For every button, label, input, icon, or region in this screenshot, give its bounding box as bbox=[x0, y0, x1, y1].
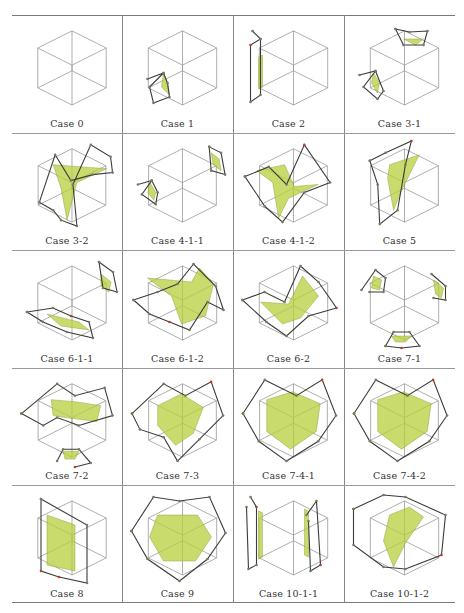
cube-wireframe bbox=[148, 31, 216, 105]
case-cell: Case 1 bbox=[122, 15, 233, 133]
case-illustration bbox=[124, 135, 235, 234]
dual-contour-patch bbox=[131, 381, 225, 463]
case-caption: Case 0 bbox=[12, 118, 122, 129]
case-illustration bbox=[14, 487, 124, 587]
case-caption: Case 10-1-1 bbox=[233, 588, 344, 599]
case-illustration bbox=[235, 370, 346, 469]
case-cell: Case 4-1-1 bbox=[122, 133, 233, 250]
case-illustration bbox=[235, 17, 346, 117]
case-cell: Case 3-2 bbox=[12, 133, 122, 250]
case-illustration bbox=[346, 487, 457, 587]
dual-contour-patch bbox=[353, 379, 449, 463]
case-caption: Case 5 bbox=[344, 235, 455, 246]
dual-contour-patch bbox=[130, 496, 227, 583]
case-cell: Case 7-3 bbox=[122, 368, 233, 485]
case-illustration bbox=[14, 370, 124, 469]
case-cell: Case 10-1-2 bbox=[344, 485, 455, 603]
case-cell: Case 9 bbox=[122, 485, 233, 603]
case-cell: Case 6-2 bbox=[233, 250, 344, 368]
case-illustration bbox=[346, 17, 457, 117]
cube-wireframe bbox=[38, 31, 106, 105]
case-illustration bbox=[124, 252, 235, 352]
case-caption: Case 7-3 bbox=[122, 470, 233, 481]
dual-contour-patch bbox=[242, 379, 338, 463]
case-caption: Case 8 bbox=[12, 588, 122, 599]
case-illustration bbox=[14, 252, 124, 352]
case-caption: Case 6-1-1 bbox=[12, 353, 122, 364]
dual-contour-patch bbox=[146, 72, 171, 105]
case-cell: Case 10-1-1 bbox=[233, 485, 344, 603]
case-cell: Case 2 bbox=[233, 15, 344, 133]
case-caption: Case 4-1-2 bbox=[233, 235, 344, 246]
dual-contour-patch bbox=[245, 496, 262, 571]
case-caption: Case 7-4-2 bbox=[344, 470, 455, 481]
cube-wireframe bbox=[38, 266, 106, 340]
cube-wireframe bbox=[149, 149, 217, 222]
case-illustration bbox=[124, 487, 235, 587]
case-cell: Case 6-1-2 bbox=[122, 250, 233, 368]
case-caption: Case 3-2 bbox=[12, 235, 122, 246]
dual-contour-patch bbox=[358, 70, 385, 101]
dual-contour-patch bbox=[98, 261, 119, 294]
case-caption: Case 7-1 bbox=[344, 353, 455, 364]
case-cell: Case 8 bbox=[12, 485, 122, 603]
dual-contour-patch bbox=[20, 383, 114, 427]
cube-wireframe bbox=[259, 31, 327, 105]
case-illustration bbox=[346, 135, 457, 234]
dual-contour-patch bbox=[241, 265, 338, 338]
case-caption: Case 2 bbox=[233, 118, 344, 129]
dual-contour-patch bbox=[38, 144, 114, 228]
dual-contour-patch bbox=[249, 30, 262, 104]
case-caption: Case 10-1-2 bbox=[344, 588, 455, 599]
case-table: Case 0Case 1Case 2Case 3-1Case 3-2Case 4… bbox=[12, 15, 455, 603]
case-illustration bbox=[14, 17, 124, 117]
dual-contour-patch bbox=[244, 144, 332, 224]
dual-contour-patch bbox=[132, 263, 225, 332]
cube-wireframe bbox=[370, 266, 438, 340]
case-illustration bbox=[346, 370, 457, 469]
case-illustration bbox=[14, 135, 124, 234]
case-cell: Case 7-2 bbox=[12, 368, 122, 485]
case-illustration bbox=[124, 370, 235, 469]
case-illustration bbox=[346, 252, 457, 352]
case-caption: Case 4-1-1 bbox=[122, 235, 233, 246]
dual-contour-patch bbox=[352, 494, 447, 571]
case-illustration bbox=[235, 135, 346, 234]
dual-contour-patch bbox=[56, 448, 92, 468]
dual-contour-patch bbox=[394, 28, 429, 47]
case-cell: Case 6-1-1 bbox=[12, 250, 122, 368]
case-caption: Case 6-2 bbox=[233, 353, 344, 364]
case-caption: Case 6-1-2 bbox=[122, 353, 233, 364]
case-illustration bbox=[235, 487, 346, 587]
case-cell: Case 7-1 bbox=[344, 250, 455, 368]
case-cell: Case 3-1 bbox=[344, 15, 455, 133]
case-cell: Case 5 bbox=[344, 133, 455, 250]
cube-wireframe bbox=[370, 31, 438, 105]
case-cell: Case 7-4-2 bbox=[344, 368, 455, 485]
case-caption: Case 3-1 bbox=[344, 118, 455, 129]
dual-contour-patch bbox=[137, 179, 159, 205]
case-cell: Case 7-4-1 bbox=[233, 368, 344, 485]
dual-contour-patch bbox=[208, 146, 226, 176]
case-cell: Case 0 bbox=[12, 15, 122, 133]
case-cell: Case 4-1-2 bbox=[233, 133, 344, 250]
case-caption: Case 9 bbox=[122, 588, 233, 599]
case-illustration bbox=[124, 17, 235, 117]
case-caption: Case 1 bbox=[122, 118, 233, 129]
case-illustration bbox=[235, 252, 346, 352]
case-caption: Case 7-2 bbox=[12, 470, 122, 481]
dual-contour-patch bbox=[384, 331, 421, 350]
case-caption: Case 7-4-1 bbox=[233, 470, 344, 481]
